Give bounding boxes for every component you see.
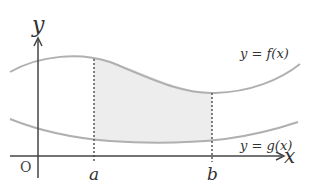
area-between-curves-diagram: y x O a b y = f(x) y = g(x) <box>0 0 313 190</box>
origin-label: O <box>20 159 31 175</box>
curve-f-label: y = f(x) <box>239 46 289 61</box>
diagram-canvas: y x O a b y = f(x) y = g(x) <box>0 0 313 190</box>
curve-g-label: y = g(x) <box>239 138 292 153</box>
bound-a-label: a <box>89 164 99 184</box>
y-axis-label: y <box>31 12 45 37</box>
shaded-region <box>94 59 212 143</box>
bound-b-label: b <box>207 164 218 184</box>
